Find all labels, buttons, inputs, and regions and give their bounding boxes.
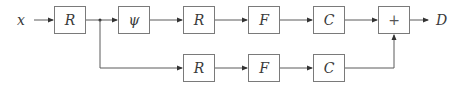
block-r1: R — [55, 7, 86, 34]
block-c2: C — [314, 55, 345, 82]
block-diagram: x R ψ R F C + R F — [0, 0, 466, 88]
input-label-x: x — [17, 12, 25, 28]
svg-text:R: R — [64, 12, 76, 28]
output-label-d: D — [435, 12, 447, 28]
arrow-c2-to-sum — [345, 35, 394, 68]
block-f2: F — [249, 55, 280, 82]
block-psi: ψ — [119, 7, 150, 34]
svg-text:C: C — [324, 60, 335, 76]
svg-text:F: F — [258, 60, 270, 76]
svg-text:R: R — [193, 12, 205, 28]
svg-text:F: F — [258, 12, 270, 28]
svg-text:+: + — [388, 12, 400, 28]
block-f1: F — [249, 7, 280, 34]
block-r3: R — [184, 55, 215, 82]
svg-text:R: R — [193, 60, 205, 76]
svg-text:ψ: ψ — [129, 12, 141, 28]
block-r2: R — [184, 7, 215, 34]
block-sum: + — [379, 7, 410, 34]
block-c1: C — [314, 7, 345, 34]
svg-text:C: C — [324, 12, 335, 28]
